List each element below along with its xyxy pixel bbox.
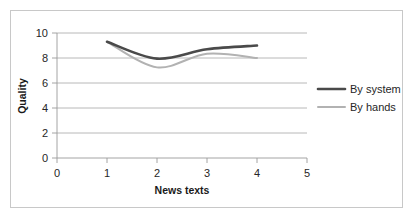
x-tick-labels: 0 1 2 3 4 5 xyxy=(54,167,310,179)
x-tick-label-2: 2 xyxy=(154,167,160,179)
x-tick-label-4: 4 xyxy=(254,167,260,179)
y-tick-label-4: 4 xyxy=(42,102,48,114)
axes xyxy=(57,33,307,158)
y-tick-marks xyxy=(52,33,57,158)
x-axis-title: News texts xyxy=(155,184,210,196)
chart-legend: By system By hands xyxy=(318,83,401,113)
y-tick-label-2: 2 xyxy=(42,127,48,139)
x-tick-label-1: 1 xyxy=(104,167,110,179)
y-tick-label-0: 0 xyxy=(42,152,48,164)
x-tick-label-0: 0 xyxy=(54,167,60,179)
y-tick-label-6: 6 xyxy=(42,77,48,89)
gridlines xyxy=(57,33,307,133)
x-tick-label-3: 3 xyxy=(204,167,210,179)
y-tick-label-10: 10 xyxy=(36,27,48,39)
y-tick-label-8: 8 xyxy=(42,52,48,64)
x-tick-marks xyxy=(57,158,307,163)
y-tick-labels: 10 8 6 4 2 0 xyxy=(36,27,48,164)
legend-label-by-hands: By hands xyxy=(350,101,396,113)
legend-label-by-system: By system xyxy=(350,83,401,95)
x-tick-label-5: 5 xyxy=(304,167,310,179)
line-chart: 10 8 6 4 2 0 0 1 2 3 4 5 News texts Qual… xyxy=(0,0,413,224)
y-axis-title: Quality xyxy=(16,78,28,114)
